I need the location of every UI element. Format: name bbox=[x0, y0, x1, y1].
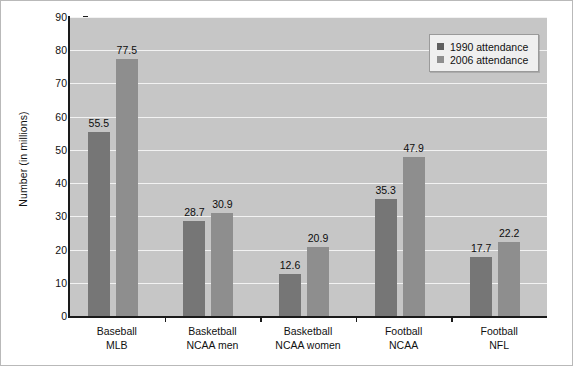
y-tick-label: 60 bbox=[27, 111, 67, 123]
y-tick-label: 70 bbox=[27, 77, 67, 89]
x-category-label-line: NFL bbox=[481, 339, 518, 353]
y-tick-label: 20 bbox=[27, 244, 67, 256]
y-axis-line bbox=[68, 16, 70, 317]
y-tick-label: 30 bbox=[27, 210, 67, 222]
gridline bbox=[69, 150, 547, 151]
x-tick-mark bbox=[260, 316, 262, 322]
x-category-label-line: MLB bbox=[97, 339, 137, 353]
gridline bbox=[69, 183, 547, 184]
bar bbox=[116, 59, 138, 316]
bar-value-label: 28.7 bbox=[184, 206, 204, 218]
bar bbox=[211, 213, 233, 316]
y-tick-label: 80 bbox=[27, 44, 67, 56]
bar bbox=[403, 157, 425, 316]
legend-swatch bbox=[437, 56, 444, 63]
legend-item: 2006 attendance bbox=[437, 53, 528, 66]
bar-value-label: 22.2 bbox=[499, 227, 519, 239]
bar bbox=[498, 242, 520, 316]
y-tick-label: 10 bbox=[27, 277, 67, 289]
x-category-label-line: NCAA women bbox=[275, 339, 340, 353]
bar-value-label: 17.7 bbox=[471, 242, 491, 254]
x-category-label-line: Football bbox=[481, 325, 518, 339]
gridline bbox=[69, 83, 547, 84]
bar-value-label: 35.3 bbox=[375, 184, 395, 196]
x-category-label: FootballNCAA bbox=[385, 325, 422, 352]
legend-swatch bbox=[437, 43, 444, 50]
x-tick-mark bbox=[451, 316, 453, 322]
y-tick-label: 90 bbox=[27, 11, 67, 23]
bar-value-label: 12.6 bbox=[280, 259, 300, 271]
x-category-label: FootballNFL bbox=[481, 325, 518, 352]
chart-legend: 1990 attendance2006 attendance bbox=[429, 34, 539, 72]
bar bbox=[88, 132, 110, 316]
x-category-label-line: Basketball bbox=[275, 325, 340, 339]
bar-value-label: 77.5 bbox=[117, 44, 137, 56]
gridline bbox=[69, 17, 547, 18]
bar bbox=[375, 199, 397, 316]
x-category-label: BaseballMLB bbox=[97, 325, 137, 352]
x-category-label-line: Football bbox=[385, 325, 422, 339]
legend-label: 2006 attendance bbox=[450, 54, 528, 66]
y-tick-label: 0 bbox=[27, 310, 67, 322]
x-category-label-line: NCAA men bbox=[186, 339, 238, 353]
bar bbox=[183, 221, 205, 316]
legend-item: 1990 attendance bbox=[437, 40, 528, 53]
x-axis-line bbox=[68, 316, 547, 318]
bar-value-label: 55.5 bbox=[89, 117, 109, 129]
bar-value-label: 20.9 bbox=[308, 232, 328, 244]
bar bbox=[279, 274, 301, 316]
bar-value-label: 30.9 bbox=[212, 198, 232, 210]
bar-value-label: 47.9 bbox=[403, 142, 423, 154]
y-tick-label: 40 bbox=[27, 177, 67, 189]
bar-chart-figure: Number (in millions) 0102030405060708090… bbox=[0, 0, 573, 366]
y-axis-ticks: 0102030405060708090 bbox=[21, 1, 67, 333]
x-category-label: BasketballNCAA women bbox=[275, 325, 340, 352]
gridline bbox=[69, 216, 547, 217]
y-tick-label: 50 bbox=[27, 144, 67, 156]
x-category-label: BasketballNCAA men bbox=[186, 325, 238, 352]
x-category-label-line: Baseball bbox=[97, 325, 137, 339]
x-category-label-line: Basketball bbox=[186, 325, 238, 339]
bar bbox=[307, 247, 329, 316]
legend-label: 1990 attendance bbox=[450, 41, 528, 53]
gridline bbox=[69, 117, 547, 118]
x-tick-mark bbox=[165, 316, 167, 322]
x-tick-mark bbox=[356, 316, 358, 322]
bar bbox=[470, 257, 492, 316]
x-category-label-line: NCAA bbox=[385, 339, 422, 353]
